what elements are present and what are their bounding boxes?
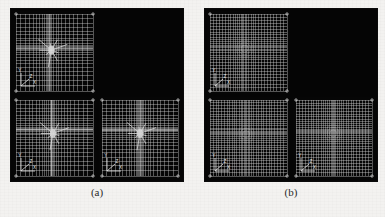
svg-text:Y: Y: [212, 68, 215, 73]
svg-text:Y: Y: [18, 68, 21, 73]
svg-text:Y: Y: [104, 153, 107, 158]
axis-triad-icon: X Y Z: [211, 66, 233, 90]
panel-b-top-right: [293, 11, 375, 94]
panel-b-bottom-right: X Y Z: [293, 97, 375, 179]
subfigure-a: X Y Z X Y Z: [11, 9, 183, 181]
svg-text:X: X: [119, 165, 122, 170]
svg-text:X: X: [227, 80, 230, 85]
svg-text:Z: Z: [223, 74, 226, 79]
svg-text:X: X: [33, 80, 36, 85]
axis-triad-icon: X Y Z: [103, 151, 125, 175]
panel-b-bottom-left: X Y Z: [207, 97, 290, 179]
panel-a-bottom-right: X Y Z: [99, 97, 181, 179]
svg-text:Y: Y: [212, 153, 215, 158]
figure-sheet: X Y Z X Y Z: [0, 0, 385, 217]
svg-text:Y: Y: [18, 153, 21, 158]
subfigure-b: X Y Z X Y Z: [205, 9, 377, 181]
axis-triad-icon: X Y Z: [297, 151, 319, 175]
panel-a-top-left: X Y Z: [13, 11, 96, 94]
panel-a-top-right: [99, 11, 181, 94]
panel-b-top-left: X Y Z: [207, 11, 290, 94]
axis-triad-icon: X Y Z: [17, 151, 39, 175]
axis-triad-icon: X Y Z: [17, 66, 39, 90]
axis-triad-icon: X Y Z: [211, 151, 233, 175]
svg-text:X: X: [227, 165, 230, 170]
caption-a: (a): [11, 186, 183, 198]
svg-text:Z: Z: [29, 74, 32, 79]
svg-text:Z: Z: [29, 159, 32, 164]
panel-a-bottom-left: X Y Z: [13, 97, 96, 179]
svg-text:X: X: [33, 165, 36, 170]
svg-text:Z: Z: [309, 159, 312, 164]
svg-text:Z: Z: [115, 159, 118, 164]
svg-text:Y: Y: [298, 153, 301, 158]
caption-b: (b): [205, 186, 377, 198]
svg-text:Z: Z: [223, 159, 226, 164]
svg-text:X: X: [313, 165, 316, 170]
